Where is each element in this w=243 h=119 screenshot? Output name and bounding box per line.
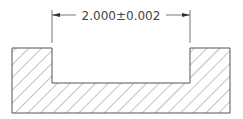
technical-drawing: 2.000±0.002 xyxy=(0,0,243,119)
section-hatching xyxy=(12,48,230,113)
dimension-label: 2.000±0.002 xyxy=(82,9,161,23)
arrowhead-right-icon xyxy=(182,13,190,17)
arrowhead-left-icon xyxy=(52,13,60,17)
